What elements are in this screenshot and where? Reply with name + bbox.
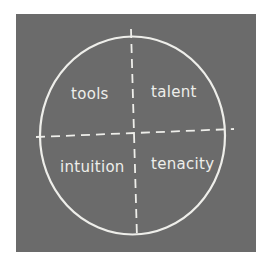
quadrant-label-bottom-right: tenacity <box>151 155 214 173</box>
quadrant-diagram: tools talent intuition tenacity <box>0 0 269 266</box>
quadrant-label-top-right: talent <box>151 83 197 101</box>
quadrant-label-top-left: tools <box>71 85 109 103</box>
quadrant-label-bottom-left: intuition <box>60 158 125 176</box>
horizontal-divider <box>36 129 234 137</box>
